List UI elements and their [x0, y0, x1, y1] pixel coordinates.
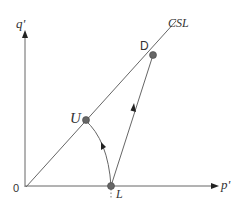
- point-d: [150, 52, 157, 59]
- path-l-to-d: [111, 55, 153, 186]
- path-l-to-d-arrow-icon: [131, 103, 137, 112]
- point-d-label: D: [140, 40, 149, 52]
- point-l-label: L: [116, 188, 123, 200]
- p-axis-label: p': [221, 178, 230, 191]
- q-axis-label: q': [16, 17, 25, 30]
- stress-path-diagram: q' p' 0 CSL D U L: [0, 0, 247, 208]
- point-l: [108, 183, 115, 190]
- p-axis-arrow-icon: [211, 183, 219, 189]
- diagram-canvas: [0, 0, 247, 208]
- csl-line: [26, 21, 176, 187]
- point-u: [83, 117, 90, 124]
- csl-label: CSL: [168, 17, 189, 29]
- q-axis: [22, 30, 28, 187]
- point-u-label: U: [70, 111, 81, 126]
- path-l-to-u: [85, 120, 111, 186]
- q-axis-arrow-icon: [22, 30, 28, 38]
- origin-label: 0: [13, 183, 19, 194]
